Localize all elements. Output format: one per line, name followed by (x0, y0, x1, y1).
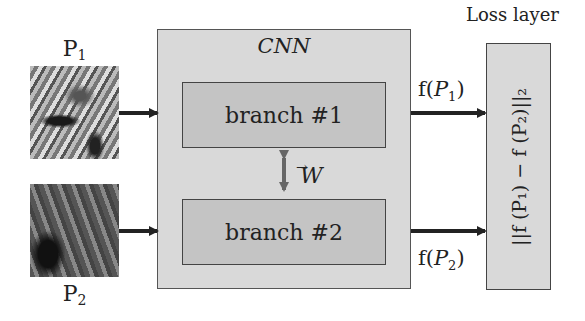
arrows-foreground (0, 0, 585, 321)
